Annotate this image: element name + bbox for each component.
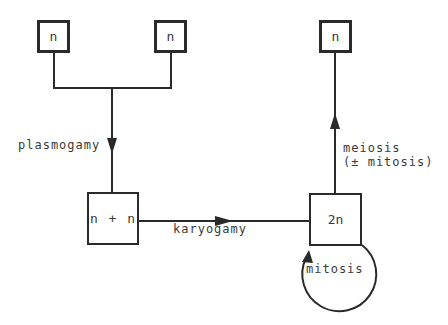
dikaryon-label-plus: + <box>109 211 117 226</box>
plasmogamy-arrowhead-icon <box>107 138 117 154</box>
plasmogamy-label: plasmogamy <box>18 138 100 152</box>
dikaryon-box: n + n <box>87 192 139 245</box>
dikaryon-label-right: n <box>127 211 135 226</box>
dikaryon-label-left: n <box>90 211 98 226</box>
diploid-label: 2n <box>328 212 344 227</box>
haploid-box-right: n <box>154 20 187 53</box>
life-cycle-diagram: n n n n + n 2n plasmogamy karyogamy meio… <box>0 0 448 325</box>
meiosis-label-line1: meiosis <box>343 141 401 155</box>
haploid-right-label: n <box>167 29 175 44</box>
plasmogamy-connector <box>53 52 172 192</box>
haploid-product-box: n <box>319 20 352 53</box>
diploid-box: 2n <box>309 193 362 246</box>
mitosis-loop <box>302 245 376 311</box>
meiosis-connector <box>330 53 340 193</box>
meiosis-arrowhead-icon <box>330 113 340 129</box>
mitosis-loop-label: mitosis <box>306 262 364 276</box>
meiosis-label-line2: (± mitosis) <box>343 155 433 169</box>
haploid-product-label: n <box>332 29 340 44</box>
haploid-left-label: n <box>50 29 58 44</box>
karyogamy-label: karyogamy <box>173 222 247 236</box>
haploid-box-left: n <box>37 20 70 53</box>
